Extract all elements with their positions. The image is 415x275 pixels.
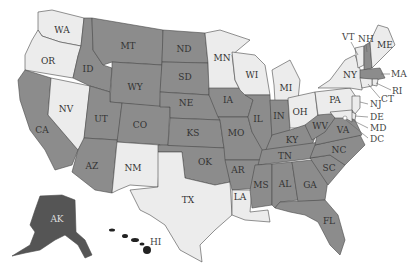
state-ri[interactable] [372,79,378,86]
label-co: CO [133,120,147,130]
label-mi: MI [280,83,293,93]
label-md: MD [370,123,386,133]
label-wi: WI [246,70,259,80]
label-fl: FL [323,216,335,226]
state-nj[interactable] [352,96,360,114]
label-nv: NV [59,104,74,114]
label-nj: NJ [370,99,382,109]
label-or: OR [41,56,55,66]
label-nd: ND [176,44,191,54]
label-va: VA [336,125,350,135]
label-az: AZ [85,161,99,171]
label-al: AL [278,179,291,189]
state-fl[interactable] [275,200,345,255]
label-ne: NE [179,98,193,108]
state-ak[interactable] [12,195,92,258]
label-sd: SD [178,72,191,82]
label-sc: SC [322,163,335,173]
label-ma: MA [391,69,407,79]
label-il: IL [253,114,263,124]
label-nh: NH [358,34,374,44]
label-mo: MO [228,128,245,138]
label-wa: WA [54,25,70,35]
label-mn: MN [213,53,230,63]
label-oh: OH [292,107,307,117]
label-pa: PA [329,95,341,105]
label-dc: DC [370,134,384,144]
label-wy: WY [127,82,143,92]
label-ak: AK [49,214,63,224]
label-de: DE [370,112,384,122]
label-tx: TX [182,195,195,205]
label-wv: WV [312,121,328,131]
label-ok: OK [198,157,212,167]
label-me: ME [377,40,393,50]
label-ut: UT [94,114,108,124]
label-vt: VT [341,32,355,42]
label-ga: GA [303,180,317,190]
label-nc: NC [332,145,347,155]
label-ar: AR [230,165,244,175]
label-ny: NY [343,70,358,80]
label-nm: NM [124,163,141,173]
label-in: IN [273,111,285,121]
label-hi: HI [150,237,162,247]
label-mt: MT [120,41,135,51]
label-id: ID [83,64,94,74]
label-ms: MS [253,180,268,190]
state-dc[interactable] [343,116,347,120]
state-mi[interactable] [272,60,300,102]
label-la: LA [234,192,247,202]
us-map: WA OR CA NV ID MT WY UT CO AZ NM ND SD N… [0,0,415,275]
label-ia: IA [223,95,234,105]
label-ks: KS [187,128,200,138]
label-tn: TN [278,151,292,161]
label-ct: CT [381,94,394,104]
state-hi[interactable] [109,229,151,255]
label-ca: CA [35,125,49,135]
label-ky: KY [286,135,299,145]
